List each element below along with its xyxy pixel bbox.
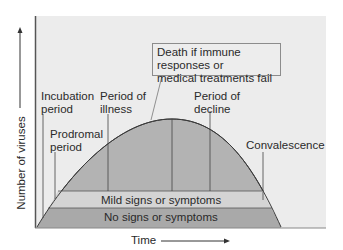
phase-label-illness: Period of illness [100, 90, 146, 115]
phase-label-incubation: Incubation period [41, 90, 94, 115]
band-label-none: No signs or symptoms [104, 211, 218, 223]
phase-label-line: period [50, 141, 103, 154]
x-arrow-head-icon [224, 239, 230, 244]
y-axis-label: Number of viruses [15, 108, 27, 218]
y-arrow-head-icon [18, 27, 23, 33]
phase-label-convalescence: Convalescence [246, 139, 325, 152]
phase-label-decline: Period of decline [194, 90, 240, 115]
x-axis-label: Time [131, 234, 156, 246]
phase-label-line: Prodromal [50, 128, 103, 141]
phase-label-line: Period of [194, 90, 240, 103]
phase-label-line: decline [194, 103, 240, 116]
death-callout: Death if immune responses or medical tre… [152, 43, 281, 76]
callout-line: Death if immune responses or [157, 46, 276, 72]
phase-label-line: Period of [100, 90, 146, 103]
callout-line: medical treatments fail [157, 72, 276, 85]
band-label-mild: Mild signs or symptoms [101, 194, 221, 206]
phase-label-line: Convalescence [246, 139, 325, 152]
phase-label-line: illness [100, 103, 146, 116]
phase-label-line: period [41, 103, 94, 116]
phase-label-prodromal: Prodromal period [50, 128, 103, 153]
phase-label-line: Incubation [41, 90, 94, 103]
